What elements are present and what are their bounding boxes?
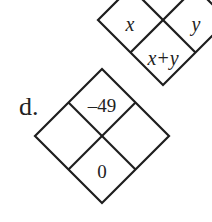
- diamond-problems-figure: x y x+y –49 0 d.: [0, 0, 212, 222]
- problem-d-label: d.: [19, 94, 39, 120]
- upper-left-cell-text: x: [125, 13, 135, 35]
- upper-right-cell-text: y: [190, 13, 201, 36]
- upper-diamond-divider-1: [131, 0, 196, 53]
- problem-d-top-cell-text: –49: [87, 95, 117, 116]
- upper-diamond-divider-2: [131, 0, 196, 53]
- problem-d-diamond: [35, 69, 169, 203]
- problem-d-bottom-cell-text: 0: [97, 161, 107, 182]
- upper-bottom-cell-text: x+y: [146, 47, 178, 70]
